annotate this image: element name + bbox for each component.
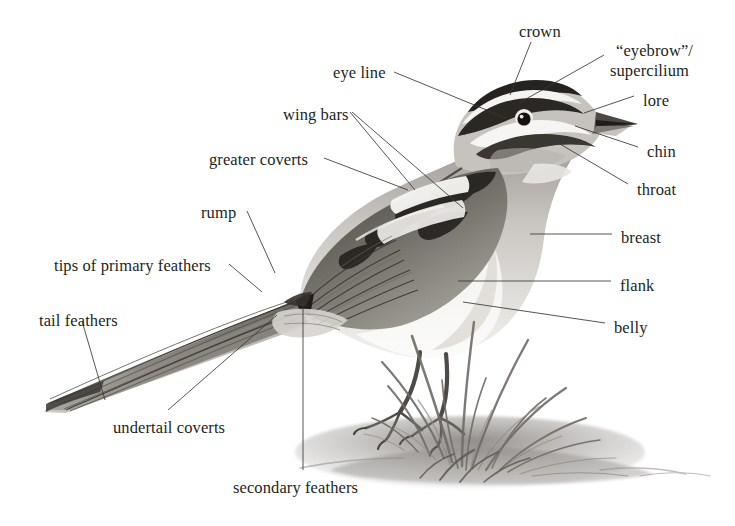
label-throat: throat [637, 180, 676, 199]
label-tips-of-primary-feathers: tips of primary feathers [54, 256, 211, 275]
leader-rump [247, 211, 275, 273]
label-wing-bars: wing bars [283, 105, 349, 124]
label-eye-line: eye line [333, 63, 386, 82]
label-lore: lore [643, 91, 669, 110]
label-undertail-coverts: undertail coverts [113, 418, 225, 437]
label-breast: breast [621, 228, 661, 247]
label-flank: flank [620, 276, 654, 295]
label-belly: belly [614, 318, 648, 337]
bird-anatomy-diagram: crown “eyebrow”/ supercilium eye line lo… [0, 0, 735, 526]
label-tail-feathers: tail feathers [39, 311, 118, 330]
label-secondary-feathers: secondary feathers [233, 478, 358, 497]
label-greater-coverts: greater coverts [209, 150, 308, 169]
leader-tips-primary [229, 264, 262, 292]
bird-head [454, 80, 638, 184]
leader-throat [560, 144, 628, 184]
label-chin: chin [647, 142, 676, 161]
leader-lore [584, 96, 634, 113]
label-rump: rump [201, 203, 236, 222]
label-crown: crown [519, 22, 561, 41]
label-eyebrow-supercilium-line2: supercilium [610, 61, 689, 81]
leader-wing-bars-a [350, 112, 415, 190]
leader-greater-coverts [324, 158, 408, 190]
ground-and-grass [295, 322, 710, 488]
label-eyebrow-supercilium-line1: “eyebrow”/ [616, 41, 693, 61]
